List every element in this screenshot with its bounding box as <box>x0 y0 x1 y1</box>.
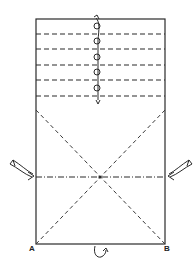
paper-outline <box>36 19 165 244</box>
crossing-point <box>98 175 101 178</box>
left-push-arrow-icon <box>10 160 34 180</box>
right-push-arrow-icon <box>168 160 192 180</box>
corner-label-b: B <box>164 245 170 253</box>
corner-label-a: A <box>29 245 35 253</box>
folding-diagram <box>0 0 196 263</box>
valley-folds <box>36 34 165 96</box>
turn-over-arrow-icon <box>94 246 108 257</box>
pleat-arrow-icon <box>94 15 100 104</box>
